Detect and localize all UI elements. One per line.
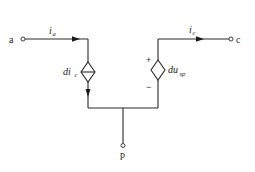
node-p: p (120, 144, 125, 161)
terminal-c-icon (229, 37, 233, 41)
minus-sign: − (146, 82, 151, 92)
current-label-ia: i a (49, 25, 56, 37)
node-a: a (9, 34, 25, 45)
terminal-a-icon (21, 37, 25, 41)
dependent-current-source (81, 62, 95, 82)
circuit-diagram: a i a di c p + − du sp (0, 0, 255, 172)
node-a-label: a (9, 34, 14, 45)
node-c: c (229, 34, 241, 45)
plus-sign: + (146, 55, 151, 65)
dic-subscript: c (75, 71, 78, 78)
current-arrow-down-icon (86, 89, 91, 97)
current-source-label: di c (63, 66, 78, 78)
dic-coef: di (63, 66, 71, 77)
diamond-voltage-source-icon (151, 60, 165, 80)
dusp-coef: du (168, 64, 178, 75)
terminal-p-icon (121, 144, 125, 148)
node-c-label: c (236, 34, 241, 45)
current-label-ic: i c (189, 24, 196, 36)
voltage-source-label: du sp (168, 64, 186, 77)
ic-subscript: c (193, 29, 196, 36)
ia-subscript: a (53, 30, 56, 37)
current-arrow-ic-icon (196, 36, 204, 41)
current-arrow-ia-icon (72, 36, 80, 41)
dependent-voltage-source: + − (146, 55, 165, 92)
node-p-label: p (120, 149, 125, 160)
dusp-subscript: sp (180, 70, 187, 77)
